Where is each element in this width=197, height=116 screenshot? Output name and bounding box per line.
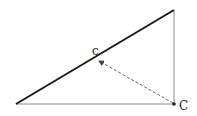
corner-point (172, 102, 176, 106)
corner-label: C (179, 99, 188, 113)
foot-label: c (92, 44, 99, 58)
right-triangle-diagram: c C (0, 0, 197, 116)
projection-arrow (99, 61, 173, 103)
